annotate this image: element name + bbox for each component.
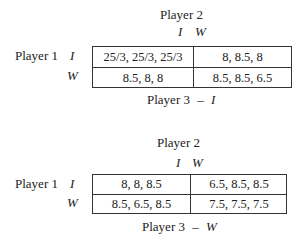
row-strategy-i: I xyxy=(70,176,74,192)
row-strategy-w: W xyxy=(67,195,78,211)
caption: Player 3 – W xyxy=(142,219,217,235)
payoff-cell-w-i: 8.5, 6.5, 8.5 xyxy=(93,195,190,214)
caption: Player 3 – I xyxy=(147,92,215,108)
row-strategy-i: I xyxy=(70,48,74,64)
column-player-label: Player 2 xyxy=(157,135,200,151)
caption-player: Player 3 xyxy=(147,92,190,107)
payoff-table: 25/3, 25/3, 25/3 8, 8.5, 8 8.5, 8, 8 8.5… xyxy=(92,46,292,88)
payoff-cell-i-w: 8, 8.5, 8 xyxy=(193,47,292,67)
payoff-cell-i-w: 6.5, 8.5, 8.5 xyxy=(191,175,287,194)
payoff-table: 8, 8, 8.5 6.5, 8.5, 8.5 8.5, 6.5, 8.5 7.… xyxy=(92,174,287,214)
caption-dash: – xyxy=(197,92,204,107)
column-strategy-w: W xyxy=(192,155,203,171)
column-strategy-i: I xyxy=(176,155,180,171)
column-strategy-w: W xyxy=(195,24,206,40)
caption-dash: – xyxy=(192,219,199,234)
row-player-label: Player 1 xyxy=(15,176,58,192)
row-player-label: Player 1 xyxy=(15,48,58,64)
caption-strategy: W xyxy=(206,219,217,234)
column-strategy-i: I xyxy=(178,24,182,40)
payoff-cell-w-i: 8.5, 8, 8 xyxy=(93,68,193,88)
column-player-label: Player 2 xyxy=(160,7,203,23)
row-strategy-w: W xyxy=(67,68,78,84)
caption-strategy: I xyxy=(211,92,215,107)
payoff-cell-i-i: 25/3, 25/3, 25/3 xyxy=(93,47,193,67)
payoff-cell-i-i: 8, 8, 8.5 xyxy=(93,175,190,194)
payoff-cell-w-w: 8.5, 8.5, 6.5 xyxy=(193,68,292,88)
payoff-cell-w-w: 7.5, 7.5, 7.5 xyxy=(191,195,287,214)
caption-player: Player 3 xyxy=(142,219,185,234)
